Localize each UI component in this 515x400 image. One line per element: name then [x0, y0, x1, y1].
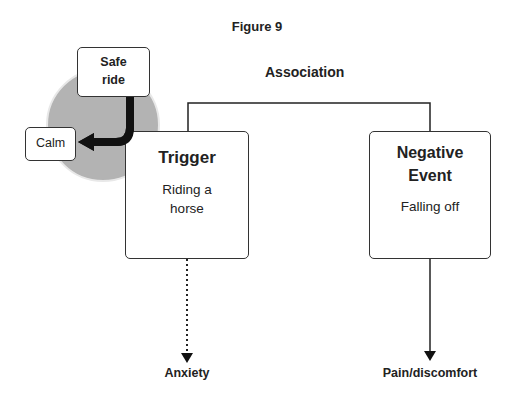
anxiety-label: Anxiety [137, 366, 237, 380]
trigger-text: Riding a horse [147, 180, 227, 218]
negative-event-title: Negative Event [385, 141, 475, 187]
trigger-title: Trigger [126, 148, 248, 168]
association-label: Association [265, 64, 344, 80]
safe-ride-label: Safe ride [94, 53, 134, 89]
anxiety-arrowhead-icon [181, 353, 193, 363]
calm-box: Calm [25, 127, 76, 161]
safe-ride-box: Safe ride [77, 47, 150, 97]
figure-title: Figure 9 [207, 19, 307, 34]
negative-event-box: Negative Event Falling off [369, 131, 491, 259]
pain-label: Pain/discomfort [370, 366, 490, 380]
pain-arrowhead-icon [424, 351, 436, 361]
calm-label: Calm [26, 136, 75, 150]
association-connector [188, 103, 430, 131]
trigger-box: Trigger Riding a horse [125, 131, 249, 259]
negative-event-text: Falling off [370, 199, 490, 214]
